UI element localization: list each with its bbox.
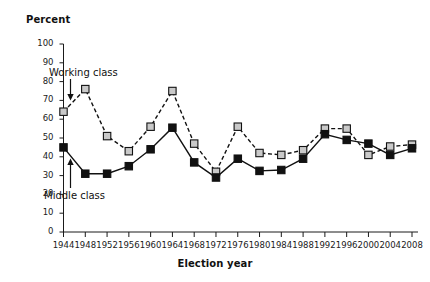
data-point-marker [212, 174, 219, 181]
series-line-middle-class [64, 128, 413, 178]
data-point-marker [256, 149, 263, 156]
data-point-marker [191, 140, 198, 147]
data-series [60, 85, 416, 181]
data-point-marker [387, 151, 394, 158]
annotation-arrows [67, 79, 73, 188]
data-point-marker [169, 87, 176, 94]
data-point-marker [343, 136, 350, 143]
data-point-marker [125, 163, 132, 170]
data-point-marker [365, 151, 372, 158]
data-point-marker [60, 144, 67, 151]
data-point-marker [299, 155, 306, 162]
data-point-marker [103, 170, 110, 177]
data-point-marker [408, 145, 415, 152]
plot-area [0, 0, 430, 282]
data-point-marker [278, 151, 285, 158]
data-point-marker [82, 85, 89, 92]
data-point-marker [82, 170, 89, 177]
data-point-marker [60, 108, 67, 115]
data-point-marker [299, 147, 306, 154]
data-point-marker [147, 146, 154, 153]
data-point-marker [387, 143, 394, 150]
data-point-marker [321, 131, 328, 138]
data-point-marker [103, 132, 110, 139]
data-point-marker [256, 167, 263, 174]
chart-container: Percent Election year Working class Midd… [0, 0, 430, 282]
data-point-marker [278, 166, 285, 173]
data-point-marker [125, 148, 132, 155]
data-point-marker [365, 140, 372, 147]
data-point-marker [147, 123, 154, 130]
data-point-marker [343, 125, 350, 132]
data-point-marker [169, 124, 176, 131]
data-point-marker [191, 159, 198, 166]
data-point-marker [234, 155, 241, 162]
data-point-marker [234, 123, 241, 130]
working-class-arrow-head [67, 94, 73, 101]
